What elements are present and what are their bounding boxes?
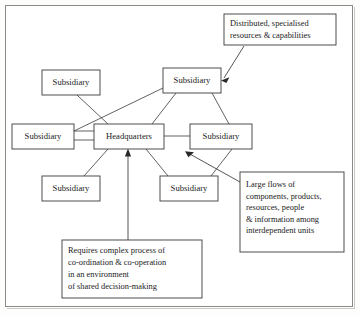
node-sub-bottom-left[interactable]: Subsidiary <box>42 176 100 201</box>
node-label: Subsidiary <box>25 131 62 141</box>
link-subtopmid-headquarters <box>152 93 176 124</box>
callout-distributed[interactable]: Distributed, specialised resources & cap… <box>224 14 336 45</box>
callout-text-line: & information among <box>246 215 320 224</box>
arrow-head-distributed <box>221 77 229 83</box>
callout-text-line: Large flows of <box>246 180 295 189</box>
network-diagram: Subsidiary Subsidiary Subsidiary Headqua… <box>0 0 360 315</box>
link-subtopleft-headquarters <box>77 95 108 124</box>
node-headquarters[interactable]: Headquarters <box>94 124 164 149</box>
figure-root: Subsidiary Subsidiary Subsidiary Headqua… <box>0 0 360 315</box>
node-label: Subsidiary <box>174 75 211 85</box>
node-sub-top-mid[interactable]: Subsidiary <box>163 68 221 93</box>
node-sub-left[interactable]: Subsidiary <box>12 124 74 149</box>
node-label: Headquarters <box>106 131 152 141</box>
callout-requires[interactable]: Requires complex process of co-ordinatio… <box>62 240 202 298</box>
arrow-line-distributed <box>224 46 244 78</box>
arrow-head-requires <box>125 149 131 157</box>
callout-text-line: Requires complex process of <box>68 246 165 255</box>
link-headquarters-subbottommid <box>146 149 168 176</box>
callout-text-line: Distributed, specialised <box>230 19 309 28</box>
callout-text-line: components, products, <box>246 192 322 201</box>
node-sub-right[interactable]: Subsidiary <box>190 124 252 149</box>
arrow-head-large-flows <box>185 151 194 157</box>
node-sub-top-left[interactable]: Subsidiary <box>42 70 100 95</box>
callout-text-line: in an environment <box>68 270 130 279</box>
link-subtopmid-subright <box>212 93 229 124</box>
callout-text-line: resources, people <box>246 203 304 212</box>
link-headquarters-subbottomleft <box>84 149 108 176</box>
node-sub-bottom-mid[interactable]: Subsidiary <box>160 176 218 201</box>
callout-text-line: interdependent units <box>246 226 314 235</box>
callout-text-line: co-ordination & co-operation <box>68 258 167 267</box>
callout-text-line: resources & capabilities <box>230 31 310 40</box>
node-label: Subsidiary <box>53 77 90 87</box>
node-label: Subsidiary <box>53 183 90 193</box>
node-label: Subsidiary <box>203 131 240 141</box>
node-label: Subsidiary <box>171 183 208 193</box>
callout-text-line: of shared decision-making <box>68 282 158 291</box>
callout-large-flows[interactable]: Large flows of components, products, res… <box>240 172 344 252</box>
